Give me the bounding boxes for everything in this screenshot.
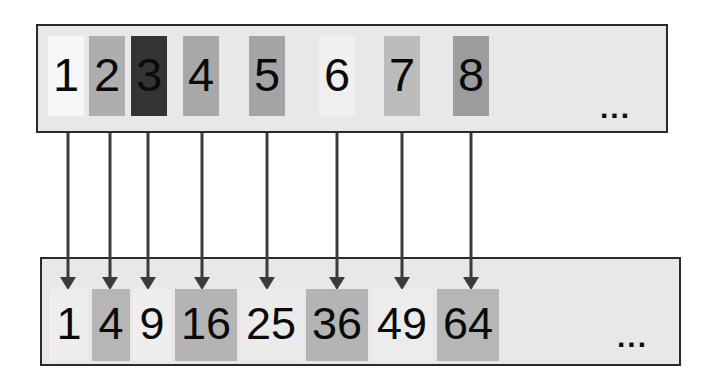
input-tile-label: 2 bbox=[94, 51, 120, 98]
input-tile-label: 1 bbox=[53, 51, 79, 98]
input-tile-6[interactable]: 6 bbox=[319, 36, 355, 116]
input-tile-label: 7 bbox=[389, 51, 415, 98]
output-tile-label: 49 bbox=[377, 301, 427, 346]
input-tile-label: 5 bbox=[254, 51, 280, 98]
output-tile-4[interactable]: 4 bbox=[92, 289, 130, 361]
output-tile-label: 64 bbox=[443, 301, 493, 346]
output-tile-label: 16 bbox=[181, 301, 231, 346]
input-tile-label: 8 bbox=[458, 51, 484, 98]
input-tile-8[interactable]: 8 bbox=[453, 36, 489, 116]
input-tile-1[interactable]: 1 bbox=[48, 36, 84, 116]
diagram-canvas: 1 2 3 4 5 6 7 8 ... 1 4 9 16 25 36 49 64 bbox=[0, 0, 710, 386]
output-tile-49[interactable]: 49 bbox=[371, 289, 433, 361]
output-tile-64[interactable]: 64 bbox=[437, 289, 499, 361]
output-tile-36[interactable]: 36 bbox=[306, 289, 368, 361]
input-row-ellipsis: ... bbox=[600, 93, 631, 123]
output-tile-1[interactable]: 1 bbox=[50, 289, 88, 361]
input-tile-3[interactable]: 3 bbox=[131, 36, 167, 116]
input-tile-4[interactable]: 4 bbox=[183, 36, 219, 116]
output-tile-label: 9 bbox=[139, 301, 164, 346]
input-tile-label: 6 bbox=[324, 51, 350, 98]
output-tile-25[interactable]: 25 bbox=[240, 289, 302, 361]
input-tile-7[interactable]: 7 bbox=[384, 36, 420, 116]
output-tile-label: 1 bbox=[56, 301, 81, 346]
output-tile-16[interactable]: 16 bbox=[175, 289, 237, 361]
input-tile-label: 3 bbox=[136, 51, 162, 98]
output-tile-label: 4 bbox=[98, 301, 123, 346]
input-tile-label: 4 bbox=[188, 51, 214, 98]
output-tile-label: 25 bbox=[246, 301, 296, 346]
output-tile-label: 36 bbox=[312, 301, 362, 346]
output-row-ellipsis: ... bbox=[617, 322, 648, 352]
output-tile-9[interactable]: 9 bbox=[133, 289, 171, 361]
input-tile-2[interactable]: 2 bbox=[89, 36, 125, 116]
input-tile-5[interactable]: 5 bbox=[249, 36, 285, 116]
